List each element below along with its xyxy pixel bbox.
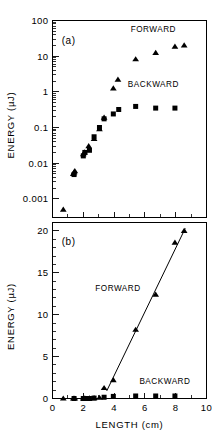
data-point-square	[87, 148, 92, 153]
panel-b-ytick-label: 0	[43, 393, 49, 404]
panel-a-ytick-label: 0.01	[28, 158, 48, 169]
panel-b-xtick-label: 10	[201, 402, 212, 413]
data-point-triangle	[172, 240, 179, 245]
panel-b-series-forward: FORWARD	[60, 228, 188, 401]
data-point-triangle	[101, 385, 108, 390]
data-point-triangle	[181, 228, 188, 233]
panel-a-ytick-label: 0.001	[23, 193, 49, 204]
data-point-triangle	[172, 43, 179, 48]
panel-b-y-axis-title: ENERGY (µJ)	[5, 283, 16, 350]
data-point-square	[82, 150, 87, 155]
panel-a-label-forward: FORWARD	[131, 25, 176, 34]
panel-a-ytick-label: 1	[43, 86, 49, 97]
data-point-square	[87, 396, 92, 401]
panel-b-x-axis-title: LENGTH (cm)	[96, 419, 164, 430]
panel-a-ytick-label: 10	[37, 51, 48, 62]
data-point-triangle	[110, 377, 117, 382]
data-point-square	[111, 394, 116, 399]
data-point-triangle	[110, 85, 117, 90]
data-point-square	[172, 393, 177, 398]
panel-b: 051015200246810(b)ENERGY (µJ)LENGTH (cm)…	[5, 223, 212, 430]
panel-b-ytick-label: 15	[37, 267, 48, 278]
data-point-triangle	[132, 327, 139, 332]
panel-a-frame	[53, 21, 207, 218]
data-point-square	[72, 396, 77, 401]
panel-b-label-forward: FORWARD	[95, 284, 140, 293]
panel-b-xtick-label: 2	[80, 402, 86, 413]
panel-b-ytick-label: 5	[43, 351, 49, 362]
data-point-square	[172, 106, 177, 111]
data-point-triangle	[132, 56, 139, 61]
data-point-square	[92, 396, 97, 401]
data-point-square	[72, 172, 77, 177]
panel-b-forward-fit-line	[107, 228, 186, 391]
panel-a-series-forward: FORWARD	[60, 25, 188, 212]
data-point-triangle	[60, 207, 67, 212]
data-point-square	[102, 116, 107, 121]
data-point-square	[82, 396, 87, 401]
panel-b-xtick-label: 4	[111, 402, 117, 413]
data-point-square	[102, 395, 107, 400]
figure-container: 0.0010.010.1110100(a)ENERGY (µJ)FORWARDB…	[0, 0, 223, 447]
panel-a-tag: (a)	[62, 35, 76, 46]
panel-b-xtick-label: 8	[173, 402, 179, 413]
panel-a-y-axis-title: ENERGY (µJ)	[5, 92, 16, 159]
data-point-square	[116, 107, 121, 112]
panel-b-ytick-label: 10	[37, 309, 48, 320]
data-point-square	[97, 125, 102, 130]
data-point-triangle	[115, 77, 122, 82]
panel-b-tag: (b)	[62, 236, 76, 247]
panel-b-series-backward: BACKWARD	[72, 377, 191, 401]
panel-b-label-backward: BACKWARD	[139, 377, 190, 386]
data-point-square	[92, 134, 97, 139]
panel-a-series-backward: BACKWARD	[72, 80, 179, 177]
two-panel-energy-vs-length-figure: 0.0010.010.1110100(a)ENERGY (µJ)FORWARDB…	[0, 0, 223, 447]
panel-a: 0.0010.010.1110100(a)ENERGY (µJ)FORWARDB…	[5, 15, 207, 218]
panel-b-xtick-label: 6	[142, 402, 148, 413]
data-point-square	[111, 111, 116, 116]
panel-a-ytick-label: 100	[31, 15, 48, 26]
panel-b-ytick-label: 20	[37, 225, 48, 236]
panel-a-label-backward: BACKWARD	[128, 80, 179, 89]
data-point-triangle	[152, 50, 159, 55]
data-point-square	[153, 106, 158, 111]
panel-b-frame	[53, 223, 207, 399]
panel-a-ytick-label: 0.1	[34, 122, 48, 133]
data-point-square	[153, 393, 158, 398]
data-point-square	[133, 104, 138, 109]
panel-b-xtick-label: 0	[50, 402, 56, 413]
data-point-triangle	[181, 42, 188, 47]
data-point-triangle	[85, 143, 92, 148]
data-point-square	[133, 393, 138, 398]
